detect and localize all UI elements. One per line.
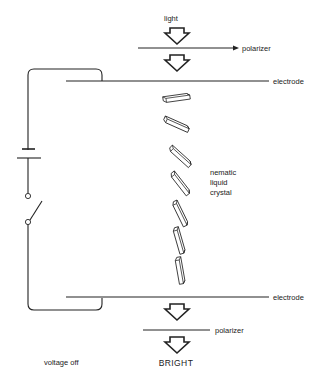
lc-molecule-icon [163,93,191,103]
output-light-arrow-icon [165,337,189,353]
lc-molecule-icon [163,116,190,132]
incoming-light-arrow-icon [165,28,189,44]
liquid-crystal-molecules [163,93,193,284]
lc-label-line3: crystal [210,188,232,197]
light-label: light [164,14,179,23]
voltage-state-label: voltage off [44,358,79,367]
lc-molecule-icon [168,145,192,168]
bottom-polarizer-label: polarizer [215,326,244,335]
lc-label-line2: liquid [210,178,228,187]
top-polarizer [138,46,239,51]
lcd-twisted-nematic-diagram: light polarizer electrode nemat [0,0,329,382]
battery-icon [17,149,41,193]
top-polarizer-label: polarizer [242,44,271,53]
result-label: BRIGHT [159,358,194,368]
polarized-light-arrow-icon [165,55,189,71]
lc-molecule-icon [172,200,189,227]
bottom-electrode-label: electrode [273,293,304,302]
top-electrode-label: electrode [273,77,304,86]
lc-molecule-icon [170,171,191,196]
lc-molecule-icon [175,257,186,285]
transmitted-light-arrow-icon [165,304,189,320]
lc-molecule-icon [173,227,186,255]
lc-label-line1: nematic [210,168,237,177]
switch-open-icon [25,193,42,224]
